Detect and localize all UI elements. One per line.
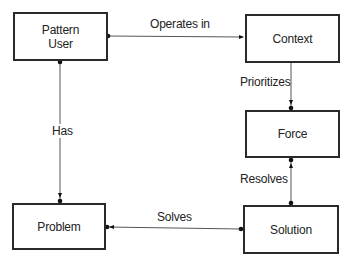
node-context-label: Context: [273, 32, 313, 46]
edge-label-operates-in: Operates in: [150, 17, 210, 31]
edge-label-prioritizes: Prioritizes: [240, 75, 290, 89]
node-solution: Solution: [243, 205, 339, 254]
edge-operates-in-arrowhead: [239, 35, 244, 39]
node-solution-label: Solution: [270, 223, 312, 237]
node-problem: Problem: [12, 203, 106, 250]
node-pattern-user: Pattern User: [13, 12, 108, 61]
edge-label-has: Has: [51, 124, 74, 138]
edge-has-arrowhead: [58, 193, 62, 198]
node-pattern-user-label-line2: User: [48, 37, 73, 51]
node-force: Force: [245, 110, 340, 158]
edge-operates-in: [107, 36, 243, 37]
node-problem-label: Problem: [37, 220, 80, 234]
edge-resolves-arrowhead: [289, 163, 293, 168]
edge-label-resolves: Resolves: [240, 172, 288, 186]
node-force-label: Force: [278, 127, 308, 141]
edge-solves: [107, 227, 241, 229]
edge-label-solves: Solves: [157, 210, 192, 224]
edge-solves-arrowhead: [109, 225, 114, 229]
node-pattern-user-label-line1: Pattern: [42, 23, 79, 37]
edge-prioritizes-arrowhead: [289, 100, 293, 105]
node-context: Context: [245, 14, 340, 63]
edge-resolves-end-dot: [289, 158, 294, 163]
